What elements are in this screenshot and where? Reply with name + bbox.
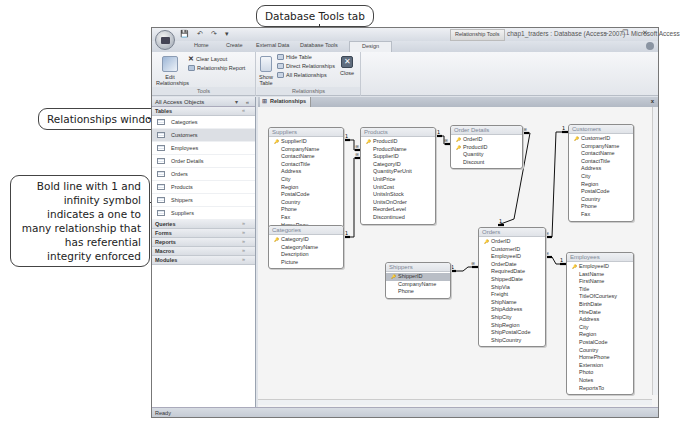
nav-item-shippers[interactable]: Shippers — [152, 194, 255, 207]
field-phone[interactable]: Phone — [386, 288, 450, 296]
field-extension[interactable]: Extension — [567, 362, 633, 370]
office-button[interactable] — [155, 30, 175, 50]
field-homephone[interactable]: HomePhone — [567, 354, 633, 362]
field-birthdate[interactable]: BirthDate — [567, 301, 633, 309]
field-requireddate[interactable]: RequiredDate — [479, 268, 545, 276]
field-phone[interactable]: Phone — [569, 203, 633, 211]
field-phone[interactable]: Phone — [269, 206, 343, 214]
field-hiredate[interactable]: HireDate — [567, 309, 633, 317]
nav-item-categories[interactable]: Categories — [152, 116, 255, 129]
all-relationships-button[interactable]: All Relationships — [277, 72, 327, 78]
field-contacttitle[interactable]: ContactTitle — [569, 158, 633, 166]
field-fax[interactable]: Fax — [269, 214, 343, 222]
field-shipregion[interactable]: ShipRegion — [479, 322, 545, 330]
table-categories[interactable]: Categories CategoryIDCategoryNameDescrip… — [268, 225, 344, 269]
field-city[interactable]: City — [569, 173, 633, 181]
tab-create[interactable]: Create — [226, 42, 243, 48]
field-categoryid[interactable]: CategoryID — [269, 236, 343, 244]
nav-group-tables[interactable]: Tables « — [152, 107, 255, 116]
field-categoryname[interactable]: CategoryName — [269, 244, 343, 252]
relationship-report-button[interactable]: Relationship Report — [188, 65, 245, 71]
field-description[interactable]: Description — [269, 251, 343, 259]
field-shipaddress[interactable]: ShipAddress — [479, 306, 545, 314]
field-postalcode[interactable]: PostalCode — [569, 188, 633, 196]
table-products[interactable]: Products ProductIDProductNameSupplierIDC… — [360, 127, 436, 225]
field-lastname[interactable]: LastName — [567, 271, 633, 279]
field-employeeid[interactable]: EmployeeID — [479, 253, 545, 261]
nav-group-reports[interactable]: Reports» — [152, 238, 255, 247]
table-shippers[interactable]: Shippers ShipperIDCompanyNamePhone — [385, 262, 451, 299]
field-quantityperunit[interactable]: QuantityPerUnit — [361, 168, 435, 176]
nav-group-modules[interactable]: Modules» — [152, 256, 255, 265]
field-photo[interactable]: Photo — [567, 369, 633, 377]
nav-item-customers[interactable]: Customers — [152, 129, 255, 142]
field-customerid[interactable]: CustomerID — [479, 246, 545, 254]
hide-table-button[interactable]: Hide Table — [277, 54, 312, 60]
tab-home[interactable]: Home — [194, 42, 209, 48]
nav-item-employees[interactable]: Employees — [152, 142, 255, 155]
field-productname[interactable]: ProductName — [361, 146, 435, 154]
help-icon[interactable] — [646, 42, 654, 50]
field-unitcost[interactable]: UnitCost — [361, 184, 435, 192]
field-address[interactable]: Address — [569, 165, 633, 173]
field-companyname[interactable]: CompanyName — [386, 281, 450, 289]
field-categoryid[interactable]: CategoryID — [361, 161, 435, 169]
tab-relationships[interactable]: ⊞Relationships — [260, 97, 311, 107]
field-address[interactable]: Address — [269, 168, 343, 176]
field-unitprice[interactable]: UnitPrice — [361, 176, 435, 184]
tab-external-data[interactable]: External Data — [256, 42, 289, 48]
field-shipperid[interactable]: ShipperID — [386, 273, 450, 281]
nav-item-order-details[interactable]: Order Details — [152, 155, 255, 168]
nav-item-orders[interactable]: Orders — [152, 168, 255, 181]
table-employees[interactable]: Employees EmployeeIDLastNameFirstNameTit… — [566, 252, 634, 395]
field-companyname[interactable]: CompanyName — [569, 143, 633, 151]
field-shipcountry[interactable]: ShipCountry — [479, 337, 545, 345]
field-region[interactable]: Region — [567, 331, 633, 339]
field-productid[interactable]: ProductID — [361, 138, 435, 146]
nav-pane-header[interactable]: All Access Objects ▾ « — [152, 97, 255, 107]
field-reportsto[interactable]: ReportsTo — [567, 385, 633, 393]
field-region[interactable]: Region — [269, 184, 343, 192]
field-shipcity[interactable]: ShipCity — [479, 314, 545, 322]
close-button[interactable]: ✕ Close — [339, 56, 355, 76]
tab-design[interactable]: Design — [349, 41, 392, 52]
field-shippeddate[interactable]: ShippedDate — [479, 276, 545, 284]
field-customerid[interactable]: CustomerID — [569, 135, 633, 143]
field-contacttitle[interactable]: ContactTitle — [269, 161, 343, 169]
nav-group-macros[interactable]: Macros» — [152, 247, 255, 256]
field-orderdate[interactable]: OrderDate — [479, 261, 545, 269]
field-fax[interactable]: Fax — [569, 211, 633, 219]
field-shipname[interactable]: ShipName — [479, 299, 545, 307]
field-supplierid[interactable]: SupplierID — [361, 153, 435, 161]
field-postalcode[interactable]: PostalCode — [269, 191, 343, 199]
field-quantity[interactable]: Quantity — [451, 151, 522, 159]
field-region[interactable]: Region — [569, 181, 633, 189]
field-titleofcourtesy[interactable]: TitleOfCourtesy — [567, 293, 633, 301]
field-address[interactable]: Address — [567, 316, 633, 324]
field-reorderlevel[interactable]: ReorderLevel — [361, 206, 435, 214]
field-picture[interactable]: Picture — [269, 259, 343, 267]
nav-group-forms[interactable]: Forms» — [152, 229, 255, 238]
quick-access-toolbar[interactable]: 💾 ↶ ↷ ▾ — [180, 30, 232, 38]
field-city[interactable]: City — [567, 324, 633, 332]
field-country[interactable]: Country — [269, 199, 343, 207]
field-discontinued[interactable]: Discontinued — [361, 214, 435, 222]
nav-pane-controls[interactable]: ▾ « — [235, 98, 252, 105]
table-order-details[interactable]: Order Details OrderIDProductIDQuantityDi… — [450, 125, 523, 169]
nav-group-queries[interactable]: Queries» — [152, 220, 255, 229]
field-city[interactable]: City — [269, 176, 343, 184]
field-contactname[interactable]: ContactName — [569, 150, 633, 158]
clear-layout-button[interactable]: ✕ Clear Layout — [188, 55, 227, 63]
show-table-button[interactable]: Show Table — [259, 56, 273, 86]
field-title[interactable]: Title — [567, 286, 633, 294]
table-orders[interactable]: Orders OrderIDCustomerIDEmployeeIDOrderD… — [478, 227, 546, 347]
close-document-icon[interactable]: x — [651, 98, 654, 104]
field-supplierid[interactable]: SupplierID — [269, 138, 343, 146]
table-customers[interactable]: Customers CustomerIDCompanyNameContactNa… — [568, 124, 634, 222]
field-country[interactable]: Country — [569, 196, 633, 204]
field-notes[interactable]: Notes — [567, 377, 633, 385]
field-postalcode[interactable]: PostalCode — [567, 339, 633, 347]
field-employeeid[interactable]: EmployeeID — [567, 263, 633, 271]
field-shippostalcode[interactable]: ShipPostalCode — [479, 329, 545, 337]
field-productid[interactable]: ProductID — [451, 144, 522, 152]
